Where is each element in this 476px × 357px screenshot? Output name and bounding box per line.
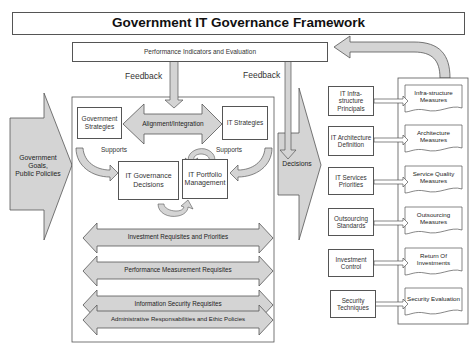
requisite-administrative: Administrative Responsabilities and Ethi…	[88, 312, 268, 326]
requisite-investment: Investment Requisites and Priorities	[97, 230, 259, 244]
goals-input-label: Government Goals, Public Policiies	[10, 147, 66, 185]
goals-line-1: Government	[19, 154, 56, 162]
measure-service-quality: Service Quality Measures	[406, 168, 461, 186]
measure-infrastructure: Infra-structure Measures	[406, 87, 461, 105]
diagram-title: Government IT Governance Framework	[12, 12, 465, 35]
feedback-arrow-left	[165, 61, 183, 108]
measure-architecture: Architecture Measures	[406, 127, 461, 145]
it-strategies-box: IT Strategies	[222, 106, 268, 140]
measure-security: Security Evaluation	[406, 290, 461, 308]
government-strategies-box: Government Strategies	[77, 107, 122, 139]
performance-indicators-box: Performance Indicators and Evaluation	[72, 42, 328, 62]
measure-roi: Return Of Investments	[406, 250, 461, 268]
feedback-label-right: Feedback	[243, 70, 280, 80]
domain-investment: Investment Control	[328, 249, 374, 277]
goals-line-2: Goals,	[28, 162, 48, 170]
domain-infrastructure: IT Infra-structure Principals	[328, 86, 374, 116]
measures-container	[398, 78, 468, 324]
requisite-security: Information Security Requisites	[97, 297, 259, 311]
feedback-label-left: Feedback	[125, 71, 162, 81]
goals-line-3: Public Policiies	[15, 170, 60, 178]
supports-label-left: Supports	[101, 146, 127, 153]
requisite-performance: Performance Measurement Requisites	[97, 263, 259, 277]
domain-services: IT Services Priorities	[328, 167, 374, 195]
return-arrow-shape	[334, 36, 450, 78]
alignment-label: Alignment/Integration	[140, 118, 206, 130]
decisions-label: Decisions	[279, 158, 315, 170]
domain-architecture: IT Architecture Definition	[328, 126, 374, 156]
domain-security: Security Techniques	[330, 290, 376, 318]
supports-label-right: Supports	[216, 146, 242, 153]
domain-outsourcing: Outsourcing Standards	[328, 208, 374, 236]
it-portfolio-management-box: IT Portfolio Management	[182, 159, 228, 199]
measure-outsourcing: Outsourcing Measures	[406, 209, 461, 227]
it-governance-decisions-box: IT Governance Decisions	[118, 161, 179, 200]
